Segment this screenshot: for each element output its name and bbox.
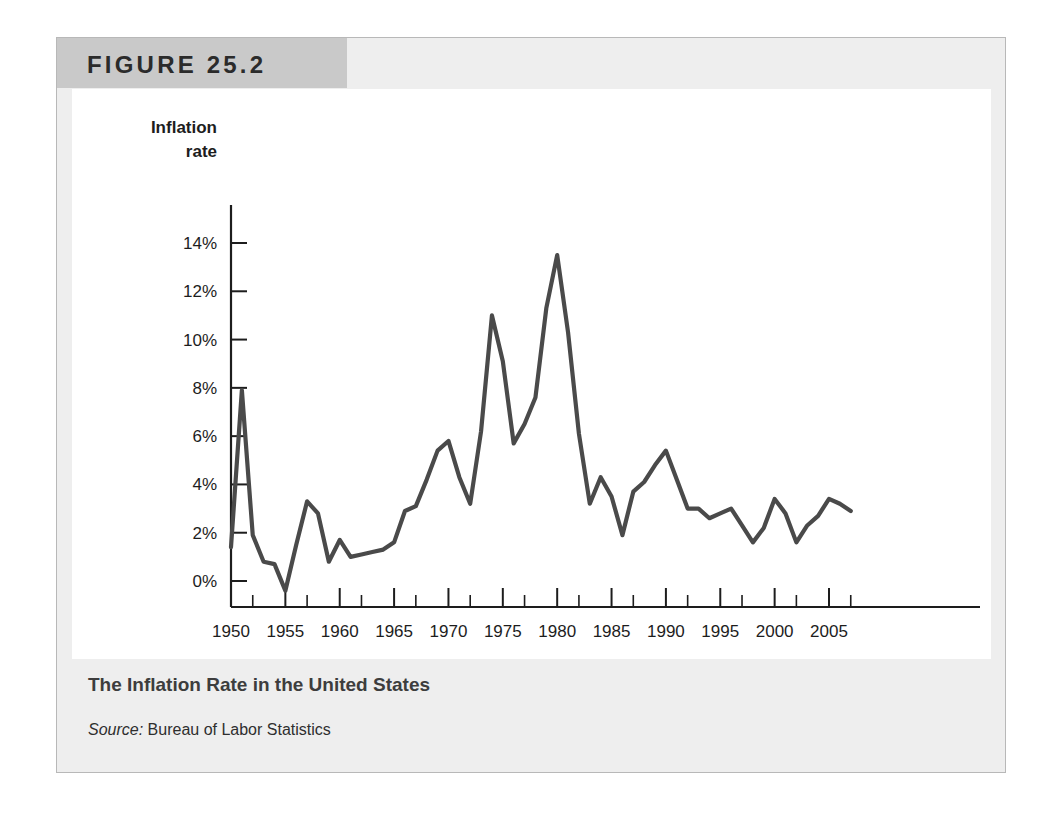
figure-number-tag: FIGURE 25.2 — [57, 38, 347, 88]
x-axis-tick-label: 1970 — [430, 622, 468, 641]
x-axis-tick-label: 1950 — [212, 622, 250, 641]
x-axis-tick-label: 1985 — [593, 622, 631, 641]
figure-number-label: FIGURE 25.2 — [87, 51, 266, 79]
y-axis-title: Inflationrate — [151, 118, 217, 161]
x-axis-tick-label: 1960 — [321, 622, 359, 641]
y-axis-tick-label: 14% — [183, 234, 217, 253]
x-axis-tick-label: 2000 — [756, 622, 794, 641]
x-axis-tick-label: 1990 — [647, 622, 685, 641]
y-axis-tick-label: 10% — [183, 331, 217, 350]
source-label: Source: — [88, 721, 143, 738]
x-axis-tick-label: 1995 — [701, 622, 739, 641]
source-value: Bureau of Labor Statistics — [143, 721, 331, 738]
x-axis-tick-labels: 1950195519601965197019751980198519901995… — [212, 622, 848, 641]
chart-plot-panel: Inflationrate 0%2%4%6%8%10%12%14% 195019… — [72, 89, 991, 659]
y-axis-tick-label: 8% — [192, 379, 217, 398]
x-axis-tick-label: 1980 — [538, 622, 576, 641]
x-axis-tick-label: 1955 — [266, 622, 304, 641]
figure-caption-title: The Inflation Rate in the United States — [88, 674, 430, 696]
x-axis-tick-label: 1975 — [484, 622, 522, 641]
x-axis-tick-label: 1965 — [375, 622, 413, 641]
figure-page: FIGURE 25.2 Inflationrate 0%2%4%6%8%10%1… — [0, 0, 1055, 818]
x-axis-ticks — [231, 588, 851, 607]
figure-card: FIGURE 25.2 Inflationrate 0%2%4%6%8%10%1… — [56, 37, 1006, 773]
x-axis-tick-label: 2005 — [810, 622, 848, 641]
y-axis-tick-label: 0% — [192, 572, 217, 591]
inflation-line-chart: Inflationrate 0%2%4%6%8%10%12%14% 195019… — [72, 89, 991, 659]
y-axis-tick-label: 4% — [192, 475, 217, 494]
y-axis-tick-labels: 0%2%4%6%8%10%12%14% — [183, 234, 217, 591]
figure-source-note: Source: Bureau of Labor Statistics — [88, 721, 331, 739]
y-axis-tick-label: 2% — [192, 524, 217, 543]
y-axis-title-line1: Inflation — [151, 118, 217, 137]
data-line — [231, 255, 851, 591]
data-line-series — [231, 255, 851, 591]
y-axis-title-line2: rate — [186, 142, 217, 161]
y-axis-tick-label: 12% — [183, 282, 217, 301]
y-axis-tick-label: 6% — [192, 427, 217, 446]
